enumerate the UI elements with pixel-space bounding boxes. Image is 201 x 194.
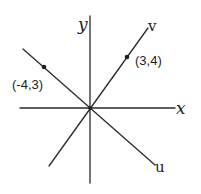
v-line-label: v [147,17,157,35]
diagram-svg: y x v u (3,4) (-4,3) [0,0,201,194]
point-neg4-3-dot [42,65,47,70]
y-axis-label: y [77,14,88,34]
x-axis-label: x [176,98,186,118]
point-3-4-label: (3,4) [135,53,162,68]
coordinate-diagram: y x v u (3,4) (-4,3) [0,0,201,194]
u-line-label: u [155,158,165,176]
point-3-4-dot [125,55,130,60]
point-neg4-3-label: (-4,3) [12,77,43,92]
origin-dot [88,106,92,110]
